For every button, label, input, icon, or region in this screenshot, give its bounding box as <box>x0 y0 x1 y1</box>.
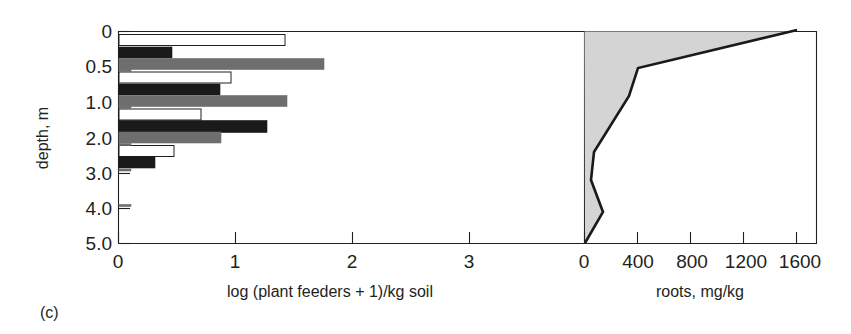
root-area-fill <box>585 32 796 244</box>
bar-black-1 <box>119 47 172 58</box>
bar-group-band-1 <box>119 35 324 70</box>
bar-black-4 <box>119 157 155 168</box>
figure-container: 0 0.5 1.0 2.0 3.0 4.0 5.0 0 1 2 3 <box>0 0 851 334</box>
bar-gray-3 <box>119 132 221 143</box>
bar-stub-1 <box>119 70 131 72</box>
y-tick-label-5_0: 5.0 <box>86 233 112 254</box>
bar-group-band-3 <box>119 109 267 143</box>
left-y-axis-title: depth, m <box>34 107 51 169</box>
soil-depth-figure: 0 0.5 1.0 2.0 3.0 4.0 5.0 0 1 2 3 <box>0 0 851 334</box>
x-tick-label-800: 800 <box>676 251 708 272</box>
right-x-tick-labels: 0 400 800 1200 1600 <box>579 251 821 272</box>
bar-white-1 <box>119 35 285 46</box>
y-tick-label-0: 0 <box>101 21 112 42</box>
x-tick-label-2: 2 <box>347 251 358 272</box>
x-tick-label-0: 0 <box>113 251 124 272</box>
bar-stub-4 <box>119 169 131 171</box>
bar-group-band-4 <box>119 146 174 169</box>
bar-white-3 <box>119 109 201 120</box>
x-tick-label-3: 3 <box>464 251 475 272</box>
left-panel-bar-chart: 0 0.5 1.0 2.0 3.0 4.0 5.0 0 1 2 3 <box>34 21 584 300</box>
left-x-ticks <box>119 232 470 244</box>
left-x-axis-title: log (plant feeders + 1)/kg soil <box>227 283 433 300</box>
bar-group-band-2 <box>119 72 287 107</box>
bar-stub-5 <box>119 205 131 207</box>
bar-black-3 <box>119 121 267 133</box>
bar-gray-2 <box>119 96 287 107</box>
y-tick-label-4_0: 4.0 <box>86 198 112 219</box>
bar-gray-1 <box>119 59 324 70</box>
bar-black-2 <box>119 84 220 95</box>
x-tick-label-400: 400 <box>622 251 654 272</box>
right-panel-root-profile: 0 400 800 1200 1600 roots, mg/kg <box>579 30 821 300</box>
y-tick-label-2_0: 2.0 <box>86 128 112 149</box>
bar-stub-3 <box>119 144 131 146</box>
bar-white-2 <box>119 72 231 83</box>
right-x-ticks <box>585 232 797 244</box>
y-tick-label-0_5: 0.5 <box>86 56 112 77</box>
left-y-tick-labels: 0 0.5 1.0 2.0 3.0 4.0 5.0 <box>86 21 112 254</box>
x-tick-label-1200: 1200 <box>725 251 767 272</box>
y-tick-label-3_0: 3.0 <box>86 163 112 184</box>
y-tick-label-1_0: 1.0 <box>86 92 112 113</box>
panel-caption: (c) <box>40 304 59 321</box>
left-x-tick-labels: 0 1 2 3 <box>113 251 475 272</box>
x-tick-label-0: 0 <box>579 251 590 272</box>
x-tick-label-1: 1 <box>230 251 241 272</box>
x-tick-label-1600: 1600 <box>779 251 821 272</box>
right-x-axis-title: roots, mg/kg <box>656 283 744 300</box>
bar-stub-2 <box>119 107 131 109</box>
bar-white-4 <box>119 146 174 157</box>
